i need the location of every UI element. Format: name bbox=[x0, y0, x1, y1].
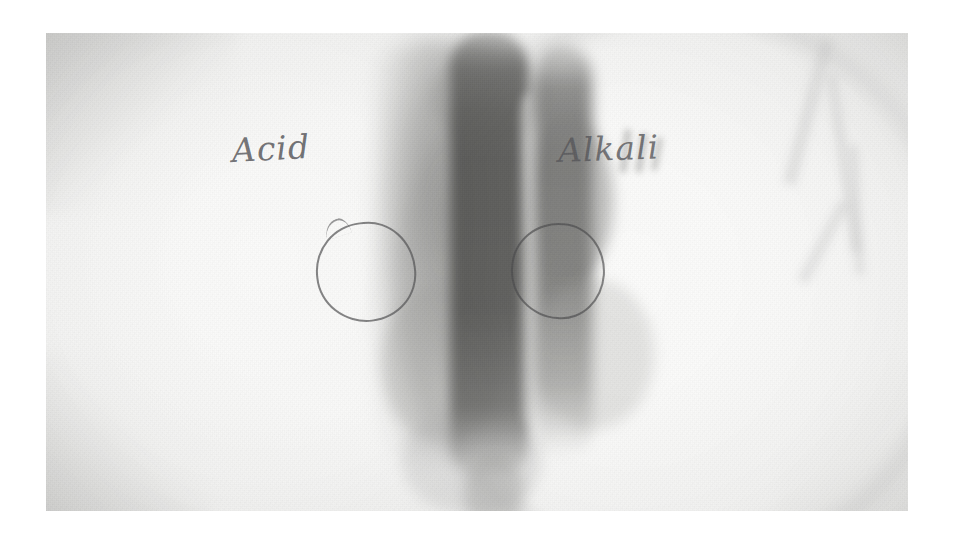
corner-wedge-bottom-left bbox=[46, 351, 211, 511]
handwritten-label-acid: Acid bbox=[231, 127, 311, 170]
corner-wedge-top-right bbox=[798, 33, 908, 203]
radiograph-photo: Acid Alkali bbox=[46, 33, 908, 511]
handwritten-label-alkali: Alkali bbox=[557, 127, 659, 170]
corner-wedge-top-left bbox=[46, 33, 236, 213]
corner-wedge-bottom-right bbox=[778, 361, 908, 511]
screenshot-canvas: Acid Alkali bbox=[0, 0, 956, 542]
